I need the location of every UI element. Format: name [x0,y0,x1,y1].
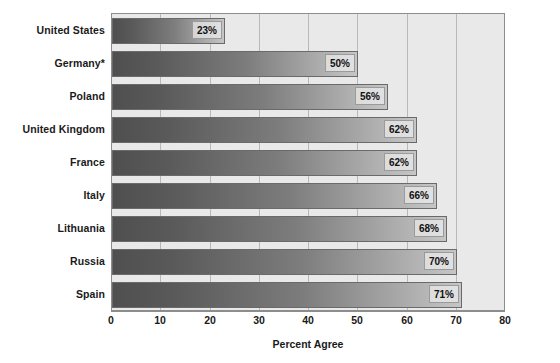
x-tick-label: 50 [337,314,377,327]
bar-value-label: 66% [404,186,434,204]
category-label: France [0,156,105,168]
bar-row: 62% [112,117,506,143]
x-tick-label: 80 [485,314,525,327]
bar-value-label: 71% [429,285,459,303]
bar-value-label: 62% [384,153,414,171]
x-axis-title: Percent Agree [111,338,505,350]
x-tick-label: 70 [436,314,476,327]
bar-chart: United StatesGermany*PolandUnited Kingdo… [0,0,560,363]
x-tick-label: 30 [239,314,279,327]
category-label: Germany* [0,57,105,69]
x-tick-label: 40 [288,314,328,327]
bar[interactable] [112,84,388,110]
bar-value-label: 70% [424,252,454,270]
category-label: Russia [0,255,105,267]
x-axis-line [111,311,505,312]
bar[interactable] [112,183,437,209]
bar-row: 71% [112,282,506,308]
bar-row: 50% [112,51,506,77]
category-label: United States [0,24,105,36]
x-tick-label: 0 [91,314,131,327]
bar-row: 62% [112,150,506,176]
bar[interactable] [112,51,358,77]
bar-value-label: 68% [414,219,444,237]
x-tick-label: 10 [140,314,180,327]
bar-value-label: 62% [384,120,414,138]
bar[interactable] [112,117,417,143]
category-label: Poland [0,90,105,102]
bar[interactable] [112,249,457,275]
x-tick-label: 20 [190,314,230,327]
bar-row: 70% [112,249,506,275]
bar[interactable] [112,282,462,308]
x-tick-label: 60 [387,314,427,327]
bar-value-label: 56% [355,87,385,105]
bar-row: 56% [112,84,506,110]
bar[interactable] [112,216,447,242]
category-label: United Kingdom [0,123,105,135]
category-label: Spain [0,288,105,300]
bar-row: 66% [112,183,506,209]
bar-value-label: 50% [325,54,355,72]
bar-row: 68% [112,216,506,242]
category-axis-labels: United StatesGermany*PolandUnited Kingdo… [0,13,105,311]
bar-row: 23% [112,18,506,44]
plot-area: 23%50%56%62%62%66%68%70%71% [111,13,505,311]
bar[interactable] [112,150,417,176]
category-label: Italy [0,189,105,201]
category-label: Lithuania [0,222,105,234]
bar-value-label: 23% [192,21,222,39]
